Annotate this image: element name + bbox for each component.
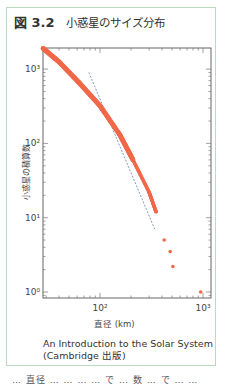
axis-tick-labels: 10⁰10¹10²10³10²10³ [25, 64, 211, 313]
caption-publisher: (Cambridge 出版) [43, 350, 213, 362]
svg-text:10¹: 10¹ [25, 213, 40, 223]
figure-caption: An Introduction to the Solar System (Cam… [43, 338, 213, 362]
data-points [41, 46, 203, 294]
plot-frame [43, 48, 211, 298]
cutoff-body-text: … 直径 … … … … で … 数 … で … … [12, 373, 198, 386]
svg-text:10³: 10³ [25, 64, 40, 74]
svg-text:10²: 10² [92, 303, 107, 313]
caption-source: An Introduction to the Solar System [43, 338, 213, 350]
svg-text:10⁰: 10⁰ [25, 287, 40, 297]
y-axis-label: 小惑星の積算数 [20, 144, 31, 200]
axis-ticks [43, 48, 211, 298]
x-axis-label: 直径 (km) [94, 317, 135, 329]
svg-text:10³: 10³ [195, 303, 210, 313]
fit-line [89, 72, 155, 229]
